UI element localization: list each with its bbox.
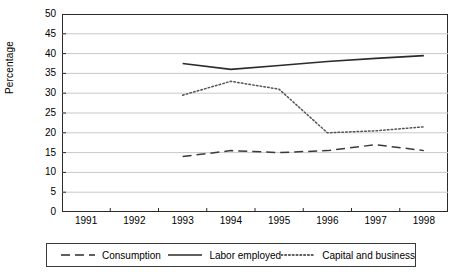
y-tick-label: 10 [26, 167, 56, 177]
legend-label: Consumption [102, 250, 161, 261]
legend-item: Capital and business [281, 250, 415, 261]
series-line [183, 145, 424, 157]
x-tick-label: 1998 [401, 216, 447, 226]
x-tick-label: 1997 [353, 216, 399, 226]
y-tick-label: 20 [26, 128, 56, 138]
x-tick-label: 1996 [304, 216, 350, 226]
y-axis-label: Percentage [4, 61, 15, 75]
x-tick-label: 1993 [160, 216, 206, 226]
x-tick-label: 1992 [111, 216, 157, 226]
y-tick-label: 5 [26, 187, 56, 197]
y-tick-label: 50 [26, 9, 56, 19]
series-line [183, 56, 424, 70]
y-tick-label: 30 [26, 88, 56, 98]
y-tick-label: 45 [26, 29, 56, 39]
legend-key-dashed-icon [61, 250, 95, 260]
chart-legend: ConsumptionLabor employedCapital and bus… [46, 243, 416, 267]
x-tick-label: 1995 [256, 216, 302, 226]
x-tick-label: 1991 [63, 216, 109, 226]
plot-area [62, 14, 448, 212]
series-line [183, 81, 424, 132]
legend-key-dotted-icon [281, 250, 315, 260]
y-tick-label: 40 [26, 49, 56, 59]
y-tick-label: 0 [26, 207, 56, 217]
x-tick-label: 1994 [208, 216, 254, 226]
y-tick-label: 15 [26, 148, 56, 158]
y-tick-label: 25 [26, 108, 56, 118]
legend-item: Labor employed [168, 250, 281, 261]
legend-key-solid-icon [168, 250, 202, 260]
y-tick-label: 35 [26, 68, 56, 78]
legend-label: Capital and business [322, 250, 415, 261]
legend-item: Consumption [61, 250, 168, 261]
legend-label: Labor employed [209, 250, 281, 261]
line-chart: Percentage 50454035302520151050 19911992… [0, 0, 464, 275]
